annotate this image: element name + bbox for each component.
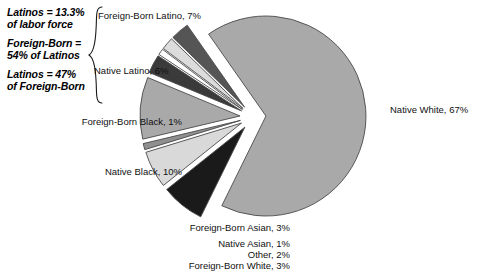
- slice-label-native-asian: Native Asian, 1%: [218, 238, 290, 249]
- slice-label-foreign-born-white: Foreign-Born White, 3%: [189, 260, 290, 271]
- slice-label-foreign-born-black: Foreign-Born Black, 1%: [82, 116, 182, 127]
- latino-share-note: Latinos = 13.3% of labor force: [7, 6, 85, 30]
- pie-chart-figure: Latinos = 13.3% of labor force Foreign-B…: [0, 0, 481, 273]
- slice-label-foreign-born-asian: Foreign-Born Asian, 3%: [190, 222, 290, 233]
- slice-label-native-white: Native White, 67%: [390, 104, 468, 115]
- slice-label-foreign-born-latino: Foreign-Born Latino, 7%: [98, 10, 201, 21]
- latino-of-foreign-note: Latinos = 47% of Foreign-Born: [7, 68, 85, 92]
- slice-label-native-black: Native Black, 10%: [105, 166, 182, 177]
- foreign-born-note: Foreign-Born = 54% of Latinos: [7, 37, 81, 61]
- slice-label-other: Other, 2%: [248, 249, 290, 260]
- slice-label-native-latino: Native Latino, 6%: [94, 65, 168, 76]
